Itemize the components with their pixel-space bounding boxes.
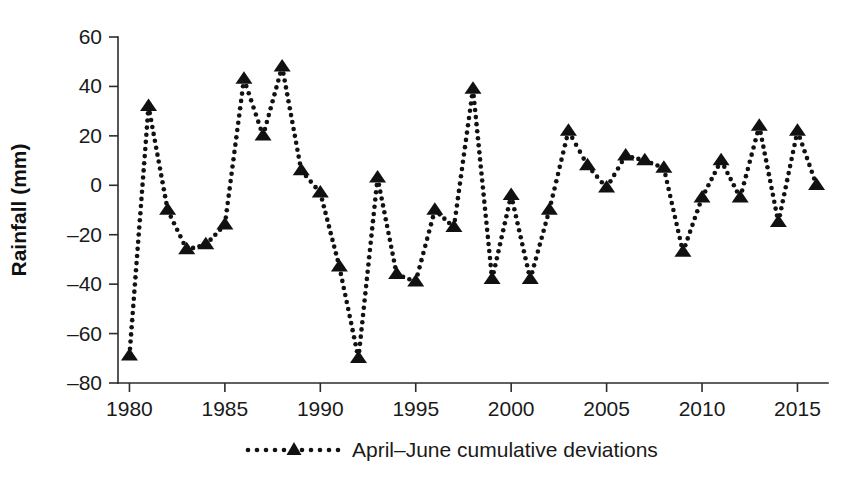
- data-point-marker: [388, 267, 405, 280]
- line-dot: [295, 147, 300, 152]
- line-dot: [515, 221, 520, 226]
- line-dot: [765, 165, 770, 170]
- line-dot: [485, 228, 490, 233]
- line-dot: [536, 249, 541, 254]
- line-dot: [240, 91, 245, 96]
- line-dot: [358, 342, 363, 347]
- line-dot: [423, 244, 428, 249]
- line-dot: [390, 251, 395, 256]
- legend-line-dot: [282, 448, 287, 453]
- line-dot: [151, 132, 156, 137]
- data-point-marker: [235, 71, 252, 84]
- line-dot: [474, 122, 479, 127]
- line-dot: [665, 180, 670, 185]
- line-dot: [462, 152, 467, 157]
- x-tick-label: 1990: [297, 397, 344, 420]
- line-dot: [294, 140, 299, 145]
- line-dot: [359, 327, 364, 332]
- line-dot: [478, 164, 483, 169]
- legend-line-dot: [336, 448, 341, 453]
- line-dot: [595, 174, 600, 179]
- line-dot: [149, 118, 154, 123]
- line-dot: [459, 174, 464, 179]
- line-dot: [563, 143, 568, 148]
- line-dot: [367, 255, 372, 260]
- line-dot: [290, 120, 295, 125]
- line-dot: [807, 163, 812, 168]
- line-dot: [178, 234, 183, 239]
- line-dot: [142, 154, 147, 159]
- legend-label: April–June cumulative deviations: [352, 438, 658, 461]
- line-dot: [677, 236, 682, 241]
- data-point-marker: [674, 244, 691, 257]
- line-dot: [232, 150, 237, 155]
- line-dot: [697, 202, 702, 207]
- data-point-marker: [713, 153, 730, 166]
- line-dot: [137, 225, 142, 230]
- legend-line-dot: [327, 448, 332, 453]
- line-dot: [266, 113, 271, 118]
- line-dot: [270, 99, 275, 104]
- data-point-marker: [732, 190, 749, 203]
- line-dot: [360, 320, 365, 325]
- line-dot: [454, 210, 459, 215]
- line-dot: [419, 258, 424, 263]
- data-point-marker: [503, 187, 520, 200]
- line-dot: [809, 169, 814, 174]
- data-point-marker: [216, 217, 233, 230]
- line-dot: [272, 92, 277, 97]
- line-dot: [386, 231, 391, 236]
- data-point-marker: [560, 123, 577, 136]
- line-dot: [554, 179, 559, 184]
- line-dot: [421, 251, 426, 256]
- line-dot: [281, 71, 286, 76]
- line-dot: [136, 239, 141, 244]
- line-dot: [499, 235, 504, 240]
- line-dot: [334, 251, 339, 256]
- line-dot: [136, 232, 141, 237]
- line-dot: [476, 143, 481, 148]
- chart-canvas: 6040200–20–40–60–80 19801985199019952000…: [0, 0, 854, 477]
- line-dot: [132, 296, 137, 301]
- line-dot: [782, 192, 787, 197]
- line-dot: [458, 181, 463, 186]
- line-dot: [802, 149, 807, 154]
- line-dot: [308, 179, 313, 184]
- line-dot: [175, 227, 180, 232]
- data-point-marker: [140, 98, 157, 111]
- line-dot: [373, 197, 378, 202]
- line-dot: [761, 144, 766, 149]
- line-dot: [169, 214, 174, 219]
- line-dot: [135, 254, 140, 259]
- line-dot: [374, 190, 379, 195]
- line-dot: [370, 226, 375, 231]
- line-dot: [523, 256, 528, 261]
- line-dot: [249, 98, 254, 103]
- line-dot: [481, 185, 486, 190]
- line-dot: [371, 212, 376, 217]
- line-dot: [471, 94, 476, 99]
- line-dot: [506, 207, 511, 212]
- line-dot: [328, 231, 333, 236]
- line-dot: [368, 241, 373, 246]
- y-tick-label: –60: [67, 322, 102, 345]
- line-dot: [320, 197, 325, 202]
- line-dot: [427, 229, 432, 234]
- line-dot: [495, 256, 500, 261]
- line-dot: [473, 108, 478, 113]
- line-dot: [425, 236, 430, 241]
- series-dotted-line: [127, 64, 819, 360]
- line-dot: [145, 125, 150, 130]
- line-dot: [514, 214, 519, 219]
- data-point-marker: [331, 259, 348, 272]
- line-dot: [148, 111, 153, 116]
- line-dot: [323, 211, 328, 216]
- line-dot: [753, 138, 758, 143]
- line-dot: [552, 186, 557, 191]
- line-dot: [578, 149, 583, 154]
- line-dot: [557, 165, 562, 170]
- line-dot: [135, 247, 140, 252]
- line-dot: [347, 314, 352, 319]
- line-dot: [389, 244, 394, 249]
- line-dot: [760, 137, 765, 142]
